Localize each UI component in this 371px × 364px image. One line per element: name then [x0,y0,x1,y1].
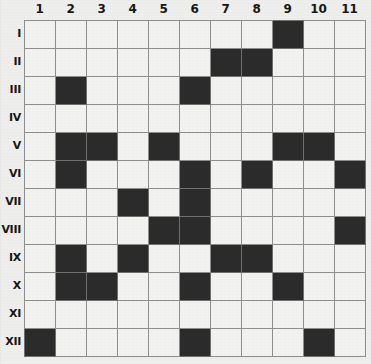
grid-cell-VII-3[interactable] [87,189,118,217]
grid-cell-III-10[interactable] [304,77,335,105]
grid-cell-IX-4[interactable] [118,245,149,273]
grid-cell-VI-10[interactable] [304,161,335,189]
grid-cell-VIII-6[interactable] [180,217,211,245]
grid-cell-IX-2[interactable] [56,245,87,273]
grid-cell-II-11[interactable] [335,49,366,77]
grid-cell-VI-6[interactable] [180,161,211,189]
grid-cell-II-3[interactable] [87,49,118,77]
grid-cell-I-3[interactable] [87,21,118,49]
grid-cell-XI-3[interactable] [87,301,118,329]
grid-cell-X-3[interactable] [87,273,118,301]
grid-cell-XI-1[interactable] [25,301,56,329]
grid-cell-V-9[interactable] [273,133,304,161]
grid-cell-V-2[interactable] [56,133,87,161]
grid-cell-III-4[interactable] [118,77,149,105]
grid-cell-VI-2[interactable] [56,161,87,189]
grid-cell-X-5[interactable] [149,273,180,301]
grid-cell-I-8[interactable] [242,21,273,49]
grid-cell-III-7[interactable] [211,77,242,105]
grid-cell-IX-9[interactable] [273,245,304,273]
grid-cell-IV-2[interactable] [56,105,87,133]
grid-cell-V-1[interactable] [25,133,56,161]
grid-cell-VIII-4[interactable] [118,217,149,245]
grid-cell-XII-10[interactable] [304,329,335,357]
grid-cell-VIII-5[interactable] [149,217,180,245]
grid-cell-VI-9[interactable] [273,161,304,189]
grid-cell-X-2[interactable] [56,273,87,301]
grid-cell-XII-9[interactable] [273,329,304,357]
grid-cell-VII-5[interactable] [149,189,180,217]
grid-cell-XII-3[interactable] [87,329,118,357]
grid-cell-VIII-11[interactable] [335,217,366,245]
grid-cell-VIII-8[interactable] [242,217,273,245]
grid-cell-V-3[interactable] [87,133,118,161]
grid-cell-I-9[interactable] [273,21,304,49]
grid-cell-XI-2[interactable] [56,301,87,329]
grid-cell-XI-10[interactable] [304,301,335,329]
grid-cell-XI-6[interactable] [180,301,211,329]
grid-cell-X-7[interactable] [211,273,242,301]
grid-cell-VIII-2[interactable] [56,217,87,245]
grid-cell-XII-11[interactable] [335,329,366,357]
grid-cell-XI-5[interactable] [149,301,180,329]
grid-cell-XI-11[interactable] [335,301,366,329]
grid-cell-XI-9[interactable] [273,301,304,329]
grid-cell-IX-11[interactable] [335,245,366,273]
grid-cell-IV-11[interactable] [335,105,366,133]
grid-cell-II-2[interactable] [56,49,87,77]
grid-cell-XII-6[interactable] [180,329,211,357]
grid-cell-V-7[interactable] [211,133,242,161]
grid-cell-VIII-3[interactable] [87,217,118,245]
grid-cell-V-6[interactable] [180,133,211,161]
grid-cell-III-1[interactable] [25,77,56,105]
grid-cell-VIII-10[interactable] [304,217,335,245]
grid-cell-V-11[interactable] [335,133,366,161]
grid-cell-IX-6[interactable] [180,245,211,273]
grid-cell-VI-4[interactable] [118,161,149,189]
grid-cell-VI-5[interactable] [149,161,180,189]
grid-cell-XII-2[interactable] [56,329,87,357]
grid-cell-I-7[interactable] [211,21,242,49]
grid-cell-IV-9[interactable] [273,105,304,133]
grid-cell-V-8[interactable] [242,133,273,161]
grid-cell-II-1[interactable] [25,49,56,77]
grid-cell-X-11[interactable] [335,273,366,301]
grid-cell-IV-1[interactable] [25,105,56,133]
grid-cell-III-11[interactable] [335,77,366,105]
grid-cell-I-11[interactable] [335,21,366,49]
grid-cell-IX-1[interactable] [25,245,56,273]
grid-cell-IV-4[interactable] [118,105,149,133]
grid-cell-II-5[interactable] [149,49,180,77]
grid-cell-I-1[interactable] [25,21,56,49]
grid-cell-XII-1[interactable] [25,329,56,357]
grid-cell-IX-3[interactable] [87,245,118,273]
grid-cell-X-9[interactable] [273,273,304,301]
grid-cell-IV-3[interactable] [87,105,118,133]
grid-cell-IV-10[interactable] [304,105,335,133]
grid-cell-V-5[interactable] [149,133,180,161]
grid-cell-XII-4[interactable] [118,329,149,357]
grid-cell-X-1[interactable] [25,273,56,301]
grid-cell-IV-7[interactable] [211,105,242,133]
grid-cell-XI-7[interactable] [211,301,242,329]
grid-cell-VI-11[interactable] [335,161,366,189]
grid-cell-IX-10[interactable] [304,245,335,273]
grid-cell-X-10[interactable] [304,273,335,301]
grid-cell-VI-3[interactable] [87,161,118,189]
puzzle-grid[interactable] [24,20,366,357]
grid-cell-IX-7[interactable] [211,245,242,273]
grid-cell-X-6[interactable] [180,273,211,301]
grid-cell-III-9[interactable] [273,77,304,105]
grid-cell-II-7[interactable] [211,49,242,77]
grid-cell-I-10[interactable] [304,21,335,49]
grid-cell-III-8[interactable] [242,77,273,105]
grid-cell-XII-7[interactable] [211,329,242,357]
grid-cell-II-6[interactable] [180,49,211,77]
grid-cell-VII-11[interactable] [335,189,366,217]
grid-cell-XI-8[interactable] [242,301,273,329]
grid-cell-XII-5[interactable] [149,329,180,357]
grid-cell-VI-7[interactable] [211,161,242,189]
grid-cell-IV-6[interactable] [180,105,211,133]
grid-cell-IV-8[interactable] [242,105,273,133]
grid-cell-II-10[interactable] [304,49,335,77]
